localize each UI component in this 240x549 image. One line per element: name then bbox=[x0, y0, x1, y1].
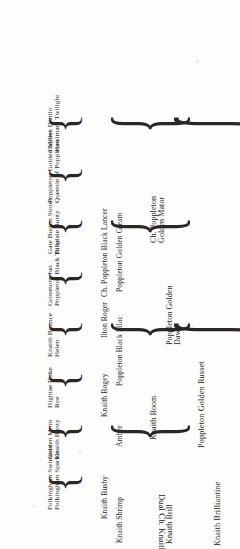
brace-gen2-1: { bbox=[147, 320, 240, 339]
gen3-name-0: Ch. Poppleton Black Lancer bbox=[101, 208, 109, 297]
gen3-name-1: Poppleton Golden Gleam bbox=[116, 213, 124, 292]
page-number: 48 bbox=[0, 534, 240, 542]
brace-gen1-root: { bbox=[195, 114, 240, 133]
gen4-dam-5: Rye bbox=[54, 367, 61, 408]
brace-gen3-1: { bbox=[98, 217, 194, 236]
gen4-pair-5: Hightae Duke Rye bbox=[47, 367, 62, 408]
gen4-dam-4: Helen bbox=[54, 313, 61, 357]
gen2-name-0: Ch. Poppleton Golden Mator bbox=[150, 196, 167, 243]
gen3-label-3: Poppleton Black Lilac bbox=[116, 316, 124, 386]
gen4-pair-4: Knaith Bounce Helen bbox=[47, 313, 62, 357]
gen4-pair-7: Folkingham Swimmer Folkingham Sparkle bbox=[47, 445, 62, 510]
gen3-label-1: Poppleton Golden Gleam bbox=[116, 213, 124, 292]
gen3-label-2: Ilton Roger bbox=[101, 302, 109, 338]
gen4-pair-3: Grosmont Jan Poppleton Black Tulip bbox=[47, 240, 62, 306]
gen2-label-0b: Golden Mator bbox=[158, 196, 166, 243]
gen2-name-1: Poppleton Golden Dawn bbox=[166, 285, 183, 345]
scan-speck bbox=[32, 505, 35, 507]
brace-gen3-0: { bbox=[98, 114, 194, 133]
gen4-dam-3: Poppleton Black Tulip bbox=[54, 240, 61, 306]
gen3-name-3: Poppleton Black Lilac bbox=[116, 316, 124, 386]
brace-gen2-0: { bbox=[147, 114, 240, 133]
gen1-name-0: Poppleton Golden Russet bbox=[198, 361, 207, 448]
gen2-name-2: Knaith Boom bbox=[150, 396, 158, 440]
gen3-label-4: Knaith Bogey bbox=[101, 373, 109, 417]
gen3-label-6: Knaith Busby bbox=[101, 476, 109, 519]
gen3-label-5: Amber bbox=[116, 425, 124, 447]
gen3-name-4: Knaith Bogey bbox=[101, 373, 109, 417]
gen2-label-1b: Dawn bbox=[174, 285, 182, 345]
scan-speck bbox=[58, 427, 61, 429]
gen4-pair-1: Poppleton Golden Miller Queenie of Poppl… bbox=[47, 130, 62, 203]
gen2-label-2: Knaith Boom bbox=[150, 396, 158, 440]
scan-speck bbox=[78, 452, 82, 454]
gen3-name-6: Knaith Busby bbox=[101, 476, 109, 519]
gen4-dam-1: Queenie of Poppleton bbox=[54, 130, 61, 203]
gen1-label-0: Poppleton Golden Russet bbox=[198, 361, 207, 448]
gen4-dam-7: Folkingham Sparkle bbox=[54, 445, 61, 510]
brace-gen3-3: { bbox=[98, 422, 194, 441]
gen3-name-2: Ilton Roger bbox=[101, 302, 109, 338]
pedigree-page: Haylers Danilo Hawlmark Twilight Popplet… bbox=[0, 0, 240, 549]
scan-speck bbox=[196, 60, 199, 63]
gen3-label-0: Ch. Poppleton Black Lancer bbox=[101, 208, 109, 297]
gen3-name-5: Amber bbox=[116, 425, 124, 447]
